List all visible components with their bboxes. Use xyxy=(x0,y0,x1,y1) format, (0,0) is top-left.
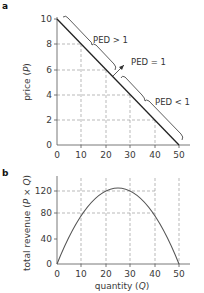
panel-b-ylabel: total revenue (P × Q) xyxy=(22,175,32,271)
svg-text:40: 40 xyxy=(149,150,161,160)
panel-b-label: b xyxy=(2,168,9,178)
panel-a-label: a xyxy=(2,1,8,11)
ped-lt-label: PED < 1 xyxy=(155,97,190,107)
svg-text:120: 120 xyxy=(35,186,52,196)
svg-text:4: 4 xyxy=(46,90,52,100)
figure: a PED > 1 PED = 1 PED < 1 10 xyxy=(0,0,204,293)
panel-b-xticks: 0 10 20 30 40 50 xyxy=(54,269,185,279)
panel-b-gridlines xyxy=(57,178,179,264)
total-revenue-curve xyxy=(57,188,179,264)
svg-text:10: 10 xyxy=(75,269,87,279)
svg-text:40: 40 xyxy=(41,234,53,244)
svg-text:2: 2 xyxy=(46,115,52,125)
panel-a-ylabel: price (P) xyxy=(22,63,32,101)
panel-a-yticks: 10 8 6 4 2 0 xyxy=(41,14,53,150)
ped-eq-label: PED = 1 xyxy=(131,57,166,67)
svg-text:8: 8 xyxy=(46,39,52,49)
svg-text:10: 10 xyxy=(41,14,53,24)
svg-text:0: 0 xyxy=(54,269,60,279)
svg-text:20: 20 xyxy=(100,269,112,279)
svg-text:10: 10 xyxy=(75,150,87,160)
panel-a-xticks: 0 10 20 30 40 50 xyxy=(54,150,185,160)
ped-gt-label: PED > 1 xyxy=(93,35,128,45)
svg-text:40: 40 xyxy=(149,269,161,279)
svg-text:0: 0 xyxy=(46,259,52,269)
panel-b-axes xyxy=(54,176,190,267)
panel-b-xlabel: quantity (Q) xyxy=(95,281,150,291)
svg-text:0: 0 xyxy=(54,150,60,160)
svg-text:20: 20 xyxy=(100,150,112,160)
svg-text:80: 80 xyxy=(41,208,53,218)
svg-text:30: 30 xyxy=(124,269,136,279)
svg-text:6: 6 xyxy=(46,65,52,75)
svg-text:30: 30 xyxy=(124,150,136,160)
svg-text:50: 50 xyxy=(173,150,185,160)
panel-b-yticks: 120 80 40 0 xyxy=(35,186,52,269)
svg-text:0: 0 xyxy=(46,140,52,150)
svg-text:50: 50 xyxy=(173,269,185,279)
